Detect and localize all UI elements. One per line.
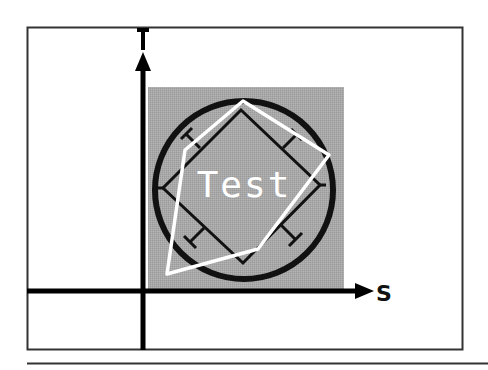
texture-label: Test — [197, 164, 292, 205]
texture-image: Test — [148, 87, 344, 291]
texture-coordinate-diagram: Test S — [0, 0, 488, 370]
s-axis-label: S — [376, 281, 392, 306]
t-axis-arrowhead — [135, 52, 151, 71]
t-axis-label — [137, 28, 149, 50]
s-axis-arrowhead — [355, 283, 374, 299]
